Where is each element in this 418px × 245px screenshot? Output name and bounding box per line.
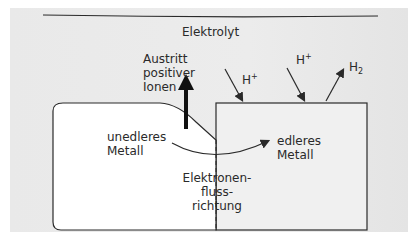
- ion-exit-line-1: Austritt: [143, 52, 195, 66]
- electron-flow-line-1: Elektronen-: [181, 171, 253, 185]
- ion-exit-label: Austritt positiver Ionen: [143, 52, 195, 94]
- noble-metal-line-2: Metall: [277, 148, 321, 162]
- noble-metal-line-1: edleres: [277, 134, 321, 148]
- h-plus-label-1: H+: [242, 70, 258, 87]
- h-plus-arrow-1: [225, 69, 242, 100]
- ion-exit-line-2: positiver: [143, 66, 195, 80]
- electron-flow-line-2: fluss-: [181, 185, 253, 199]
- electron-flow-line-3: richtung: [181, 199, 253, 213]
- h2-label: H2: [349, 60, 363, 79]
- ion-exit-line-3: Ionen: [143, 80, 195, 94]
- h-plus-arrow-2: [287, 68, 304, 100]
- h2-arrow: [326, 70, 343, 101]
- base-metal-label: unedleres Metall: [107, 130, 166, 158]
- h-plus-label-2: H+: [296, 50, 312, 67]
- noble-metal-label: edleres Metall: [277, 134, 321, 162]
- electrolyte-label: Elektrolyt: [182, 25, 239, 39]
- base-metal-line-1: unedleres: [107, 130, 166, 144]
- electron-flow-label: Elektronen- fluss- richtung: [181, 171, 253, 213]
- electrolyte-surface-line: [43, 15, 378, 17]
- base-metal-line-2: Metall: [107, 144, 166, 158]
